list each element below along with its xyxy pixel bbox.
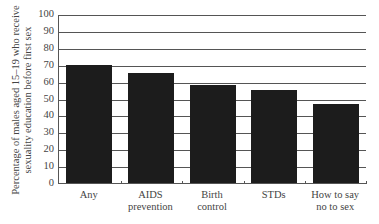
x-tick bbox=[244, 181, 245, 184]
x-tick-label: Birthcontrol bbox=[177, 189, 247, 213]
bar bbox=[190, 85, 236, 183]
gridline bbox=[59, 15, 366, 16]
y-tick-label: 0 bbox=[32, 177, 54, 188]
bar-chart: Percentage of males aged 15–19 who recei… bbox=[0, 0, 379, 224]
x-tick bbox=[366, 181, 367, 184]
bar bbox=[66, 65, 112, 183]
plot-area bbox=[58, 15, 366, 184]
x-tick bbox=[305, 181, 306, 184]
y-tick-label: 40 bbox=[32, 109, 54, 120]
gridline bbox=[59, 32, 366, 33]
y-tick-label: 10 bbox=[32, 160, 54, 171]
y-tick-label: 80 bbox=[32, 42, 54, 53]
x-tick-label: How to sayno to sex bbox=[300, 189, 370, 213]
y-tick-label: 60 bbox=[32, 76, 54, 87]
x-tick bbox=[121, 181, 122, 184]
x-tick-label: AIDSprevention bbox=[115, 189, 185, 213]
bar bbox=[128, 73, 174, 183]
y-tick-label: 70 bbox=[32, 59, 54, 70]
x-tick-label: Any bbox=[54, 189, 124, 201]
y-tick-label: 30 bbox=[32, 126, 54, 137]
gridline bbox=[59, 49, 366, 50]
bar bbox=[251, 90, 297, 183]
y-tick-label: 100 bbox=[32, 8, 54, 19]
y-tick-label: 20 bbox=[32, 143, 54, 154]
bar bbox=[313, 104, 359, 183]
x-tick bbox=[182, 181, 183, 184]
y-tick-label: 90 bbox=[32, 25, 54, 36]
x-tick-label: STDs bbox=[239, 189, 309, 201]
y-tick-label: 50 bbox=[32, 93, 54, 104]
